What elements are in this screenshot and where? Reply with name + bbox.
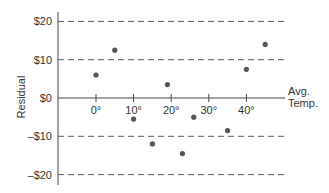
data-point: [150, 141, 155, 146]
data-points: [93, 42, 267, 156]
data-point: [112, 48, 117, 53]
x-tick-label: 40°: [238, 104, 255, 116]
y-tick-label: $10: [34, 54, 52, 66]
x-tick-label: 0°: [91, 104, 102, 116]
x-tick-label: 10°: [125, 104, 142, 116]
x-tick-label: 30°: [200, 104, 217, 116]
y-axis-label: Residual: [15, 76, 27, 119]
y-tick-label: $20: [34, 15, 52, 27]
data-point: [93, 72, 98, 77]
x-axis-label-line2: Temp.: [288, 97, 318, 109]
residual-scatter-chart: $20$10$0–$10–$20 0°10°20°30°40° Residual…: [0, 0, 329, 193]
y-tick-labels: $20$10$0–$10–$20: [28, 15, 52, 180]
data-point: [225, 128, 230, 133]
y-tick-label: –$20: [28, 169, 52, 181]
x-ticks: 0°10°20°30°40°: [91, 94, 255, 116]
x-axis-label-line1: Avg.: [288, 85, 310, 97]
data-point: [263, 42, 268, 47]
data-point: [165, 82, 170, 87]
data-point: [180, 151, 185, 156]
data-point: [191, 115, 196, 120]
data-point: [131, 116, 136, 121]
data-point: [244, 67, 249, 72]
y-tick-label: –$10: [28, 130, 52, 142]
x-tick-label: 20°: [163, 104, 180, 116]
y-tick-label: $0: [40, 92, 52, 104]
